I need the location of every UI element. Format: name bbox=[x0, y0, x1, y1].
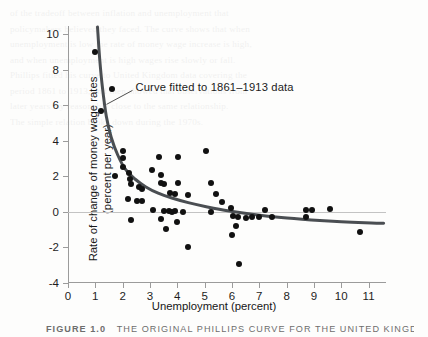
x-tick bbox=[232, 283, 233, 288]
x-tick bbox=[259, 283, 260, 288]
annotation-leader-line bbox=[68, 27, 385, 283]
x-tick bbox=[314, 283, 315, 288]
x-tick bbox=[205, 283, 206, 288]
y-tick-label: -4 bbox=[49, 277, 59, 289]
x-tick bbox=[341, 283, 342, 288]
figure-caption-title: THE ORIGINAL PHILLIPS CURVE FOR THE UNIT… bbox=[117, 324, 414, 334]
y-tick-label: 6 bbox=[53, 99, 59, 111]
annotation-label: Curve fitted to 1861–1913 data bbox=[136, 81, 294, 93]
plot-area: -4-20246810 01234567891011 Curve fitted … bbox=[68, 27, 385, 283]
x-tick bbox=[68, 283, 69, 288]
y-tick-label: -2 bbox=[49, 241, 59, 253]
x-tick bbox=[150, 283, 151, 288]
x-axis-label: Unemployment (percent) bbox=[0, 300, 428, 312]
y-tick-label: 10 bbox=[46, 28, 59, 40]
y-tick-label: 0 bbox=[53, 206, 59, 218]
x-tick bbox=[369, 283, 370, 288]
phillips-curve-figure: of the tradeoff between inflation and un… bbox=[0, 0, 428, 337]
x-tick bbox=[123, 283, 124, 288]
x-tick bbox=[287, 283, 288, 288]
x-tick bbox=[95, 283, 96, 288]
y-tick-label: 8 bbox=[53, 64, 59, 76]
y-tick-label: 2 bbox=[53, 170, 59, 182]
x-tick bbox=[177, 283, 178, 288]
figure-caption-sep bbox=[106, 324, 117, 334]
y-tick-label: 4 bbox=[53, 135, 59, 147]
figure-caption-number: FIGURE 1.0 bbox=[46, 324, 106, 334]
figure-caption: FIGURE 1.0 THE ORIGINAL PHILLIPS CURVE F… bbox=[46, 324, 414, 334]
